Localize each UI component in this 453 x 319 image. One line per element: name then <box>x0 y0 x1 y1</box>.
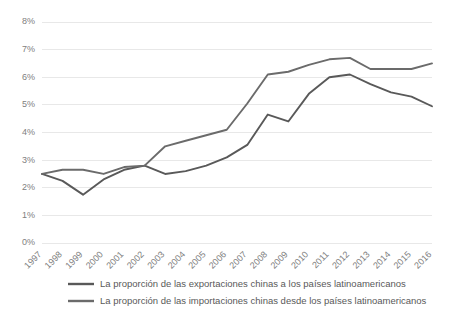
x-axis-label: 1999 <box>63 249 84 270</box>
x-axis-label: 2005 <box>186 249 207 270</box>
x-axis-label: 2012 <box>330 249 351 270</box>
x-axis-label: 2004 <box>166 249 187 270</box>
x-axis-label: 2002 <box>125 249 146 270</box>
x-axis-label: 1998 <box>43 249 64 270</box>
y-axis-label: 2% <box>22 182 35 192</box>
y-axis-label: 8% <box>22 16 35 26</box>
x-axis-label: 2011 <box>310 249 331 270</box>
x-axis-label: 2016 <box>412 249 433 270</box>
x-axis-label: 2014 <box>371 249 392 270</box>
x-axis-label: 2010 <box>289 249 310 270</box>
y-axis-label: 1% <box>22 210 35 220</box>
chart-container: 0%1%2%3%4%5%6%7%8% 199719981999200020012… <box>0 0 453 319</box>
legend-label: La proporción de las importaciones china… <box>100 295 427 306</box>
x-axis-label: 2015 <box>392 249 413 270</box>
gridlines <box>42 22 432 243</box>
x-axis-label: 2007 <box>227 249 248 270</box>
series-line-importaciones <box>42 58 432 174</box>
x-axis-label: 2006 <box>207 249 228 270</box>
x-axis-label: 2003 <box>145 249 166 270</box>
y-axis-tick-labels: 0%1%2%3%4%5%6%7%8% <box>22 16 35 247</box>
x-axis-label: 1997 <box>22 249 43 270</box>
x-axis-label: 2008 <box>248 249 269 270</box>
series-line-exportaciones <box>42 74 432 194</box>
y-axis-label: 5% <box>22 99 35 109</box>
x-axis-label: 2009 <box>268 249 289 270</box>
line-chart: 0%1%2%3%4%5%6%7%8% 199719981999200020012… <box>0 0 453 319</box>
x-axis-label: 2000 <box>84 249 105 270</box>
x-axis-tick-labels: 1997199819992000200120022003200420052006… <box>22 249 433 270</box>
y-axis-label: 4% <box>22 127 35 137</box>
y-axis-label: 3% <box>22 155 35 165</box>
x-axis-label: 2001 <box>104 249 125 270</box>
data-series <box>42 58 432 195</box>
y-axis-label: 6% <box>22 72 35 82</box>
x-axis-label: 2013 <box>351 249 372 270</box>
y-axis-label: 0% <box>22 237 35 247</box>
y-axis-label: 7% <box>22 44 35 54</box>
chart-legend: La proporción de las exportaciones china… <box>68 278 427 306</box>
legend-label: La proporción de las exportaciones china… <box>100 278 406 289</box>
